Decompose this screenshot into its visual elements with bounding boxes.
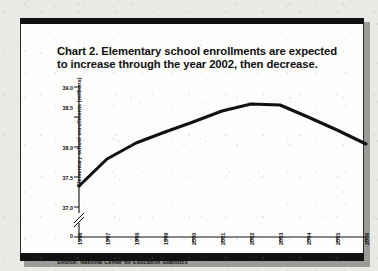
y-tick-label-37.0: 37.0 (49, 205, 73, 211)
x-tick-label-1999: 1999 (163, 233, 169, 245)
x-tick-label-2002: 2002 (249, 233, 255, 245)
x-tick-label-2000: 2000 (191, 233, 197, 245)
chart-canvas (41, 37, 378, 271)
x-tick-label-2005: 2005 (335, 233, 341, 245)
x-tick-label-1996: 1996 (77, 233, 83, 245)
plot-area: Elementary school enrollments (millions)… (41, 37, 378, 271)
y-axis-title: Elementary school enrollments (millions) (76, 64, 82, 200)
y-tick-label-38.0: 38.0 (49, 145, 73, 151)
y-tick-label-38.5: 38.5 (49, 105, 73, 111)
chart-frame: Chart 2. Elementary school enrollments a… (20, 18, 364, 261)
x-tick-label-2001: 2001 (220, 233, 226, 245)
frame-bottom-bar (20, 253, 364, 261)
x-tick-label-2004: 2004 (306, 233, 312, 245)
x-tick-label-1998: 1998 (134, 233, 140, 245)
x-tick-label-1997: 1997 (105, 233, 111, 245)
x-tick-label-2003: 2003 (278, 233, 284, 245)
y-tick-label-37.5: 37.5 (49, 175, 73, 181)
x-tick-label-2006: 2006 (364, 233, 370, 245)
frame-top-bar (20, 18, 364, 24)
enrollment-line-series (79, 104, 366, 186)
y-tick-label-0: 0 (49, 233, 73, 239)
y-tick-label-39.0: 39.0 (49, 85, 73, 91)
